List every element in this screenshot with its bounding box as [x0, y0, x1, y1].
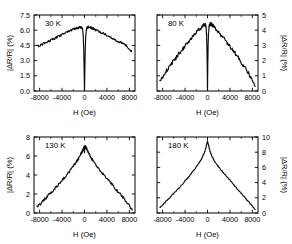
y-tick-label: 5: [262, 11, 266, 20]
x-tick-label: 4000: [222, 93, 238, 102]
x-tick-label: 8000: [121, 215, 137, 224]
x-axis-title: H (Oe): [196, 108, 219, 117]
y-tick-label: 0.0: [20, 87, 30, 96]
magnetoresistance-figure: -8000-40000400080000.01.53.04.56.07.5H (…: [0, 0, 292, 244]
x-axis-title: H (Oe): [73, 108, 96, 117]
x-tick-label: 8000: [244, 215, 260, 224]
x-tick-label: 0: [206, 93, 210, 102]
y-tick-label: 1: [262, 71, 266, 80]
x-tick-label: 0: [83, 93, 87, 102]
panel-130k: -8000-400004000800002468H (Oe)|ΔR/R| (%)…: [0, 122, 146, 244]
x-tick-label: -4000: [176, 215, 194, 224]
plot-80k: -8000-4000040008000012345H (Oe)|ΔR/R| (%…: [146, 0, 292, 122]
x-tick-label: -4000: [176, 93, 194, 102]
x-tick-label: -8000: [30, 215, 48, 224]
y-tick-label: 6: [262, 163, 266, 172]
x-tick-label: 8000: [244, 93, 260, 102]
x-tick-label: 4000: [99, 215, 115, 224]
plot-30k: -8000-40000400080000.01.53.04.56.07.5H (…: [0, 0, 146, 122]
y-tick-label: 7.5: [20, 11, 30, 20]
y-tick-label: 4: [262, 178, 266, 187]
x-axis-title: H (Oe): [73, 230, 96, 239]
x-tick-label: -4000: [53, 93, 71, 102]
temperature-label: 30 K: [45, 19, 62, 28]
y-tick-label: 2: [262, 193, 266, 202]
x-tick-label: -8000: [30, 93, 48, 102]
temperature-label: 80 K: [168, 19, 185, 28]
y-axis-title: |ΔR/R| (%): [5, 157, 14, 193]
y-axis-title: |ΔR/R| (%): [280, 157, 289, 193]
x-tick-label: 0: [83, 215, 87, 224]
data-trace: [160, 23, 255, 90]
temperature-label: 180 K: [168, 141, 189, 150]
y-tick-label: 4.5: [20, 41, 30, 50]
data-trace: [37, 26, 131, 91]
x-tick-label: 0: [206, 215, 210, 224]
y-tick-label: 8: [26, 133, 30, 142]
y-tick-label: 6: [26, 152, 30, 161]
y-axis-title: |ΔR/R| (%): [280, 35, 289, 71]
x-tick-label: 4000: [222, 215, 238, 224]
panel-80k: -8000-4000040008000012345H (Oe)|ΔR/R| (%…: [146, 0, 292, 122]
y-tick-label: 3: [262, 41, 266, 50]
y-tick-label: 0: [26, 209, 30, 218]
panel-180k: -8000-40000400080000246810H (Oe)|ΔR/R| (…: [146, 122, 292, 244]
plot-180k: -8000-40000400080000246810H (Oe)|ΔR/R| (…: [146, 122, 292, 244]
x-tick-label: -8000: [153, 215, 171, 224]
plot-130k: -8000-400004000800002468H (Oe)|ΔR/R| (%)…: [0, 122, 146, 244]
y-tick-label: 10: [262, 133, 270, 142]
x-tick-label: -8000: [153, 93, 171, 102]
y-tick-label: 1.5: [20, 71, 30, 80]
data-trace: [160, 141, 255, 210]
y-tick-label: 4: [26, 171, 30, 180]
y-tick-label: 6.0: [20, 26, 30, 35]
x-tick-label: 8000: [121, 93, 137, 102]
y-tick-label: 4: [262, 26, 266, 35]
y-tick-label: 8: [262, 148, 266, 157]
x-axis-title: H (Oe): [196, 230, 219, 239]
y-tick-label: 3.0: [20, 56, 30, 65]
y-tick-label: 0: [262, 209, 266, 218]
y-tick-label: 0: [262, 87, 266, 96]
x-tick-label: -4000: [53, 215, 71, 224]
panel-30k: -8000-40000400080000.01.53.04.56.07.5H (…: [0, 0, 146, 122]
data-trace: [37, 145, 132, 210]
y-tick-label: 2: [262, 56, 266, 65]
temperature-label: 130 K: [45, 141, 66, 150]
x-tick-label: 4000: [99, 93, 115, 102]
y-tick-label: 2: [26, 190, 30, 199]
y-axis-title: |ΔR/R| (%): [5, 35, 14, 71]
